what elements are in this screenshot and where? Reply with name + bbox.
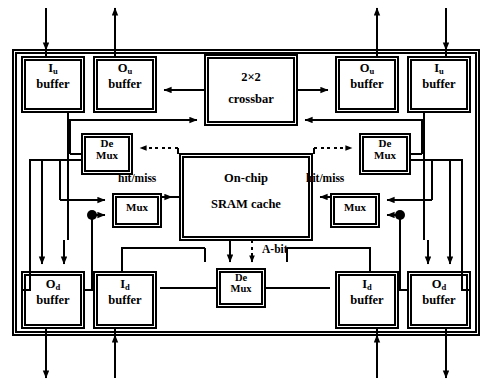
- wire-demuxleft-left-out: [30, 160, 82, 290]
- box-ou-right: [336, 57, 398, 112]
- box-iu-left: [22, 57, 84, 112]
- box-crossbar: [205, 55, 297, 125]
- box-demux-left: [82, 134, 132, 174]
- box-mux-left: [113, 194, 161, 227]
- box-od-left: [22, 272, 84, 328]
- box-demux-bottom: [217, 269, 265, 307]
- wire-idleft-bus: [122, 248, 205, 272]
- box-cache: [180, 154, 312, 240]
- box-id-left: [94, 272, 156, 328]
- box-ou-left: [94, 57, 156, 112]
- diagram-svg: [0, 0, 492, 386]
- box-mux-right: [331, 194, 379, 227]
- box-id-right: [336, 272, 398, 328]
- wire-idright-bus: [287, 248, 370, 272]
- box-od-right: [408, 272, 470, 328]
- junction-dot-right: [395, 210, 405, 220]
- bus-right-inner: [462, 160, 470, 290]
- wire-demuxright-right-out: [410, 160, 462, 290]
- box-demux-right: [360, 134, 410, 174]
- box-iu-right: [408, 57, 470, 112]
- junction-dot-left: [87, 210, 97, 220]
- diagram-canvas: Iu buffer Ou buffer Ou buffer Iu buffer …: [0, 0, 492, 386]
- bus-left-inner: [22, 160, 30, 290]
